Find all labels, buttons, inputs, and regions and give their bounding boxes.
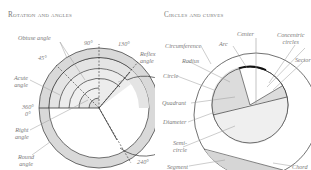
label-right-angle: Right angle (15, 126, 29, 140)
label-diameter: Diameter (163, 118, 186, 125)
label-chord: Chord (292, 163, 308, 170)
label-sector: Sector (295, 56, 311, 63)
label-240-degrees: 240° (137, 158, 149, 165)
label-quadrant: Quadrant (162, 99, 186, 106)
label-round-angle: Round angle (18, 153, 34, 167)
label-360-0-degrees: 360° 0° (22, 103, 34, 117)
label-90-degrees: 90° (84, 39, 93, 46)
label-concentric-circles: Concentric circles (277, 31, 305, 45)
label-circle: Circle (163, 72, 178, 79)
label-obtuse-angle: Obtuse angle (18, 34, 51, 41)
label-45-degrees: 45° (38, 54, 47, 61)
label-radius: Radius (182, 57, 199, 64)
rotation-angles-panel: Rotation and angles (0, 0, 155, 170)
label-arc: Arc (219, 40, 228, 47)
label-acute-angle: Acute angle (14, 74, 28, 88)
label-semicircle: Semi- circle (173, 139, 187, 153)
label-130-degrees: 130° (118, 40, 130, 47)
circles-curves-panel: Circles and curves (155, 0, 311, 170)
label-reflex-angle: Reflex angle (140, 50, 155, 64)
label-segment: Segment (167, 163, 188, 170)
label-circumference: Circumference (165, 42, 201, 49)
label-center: Center (237, 30, 254, 37)
